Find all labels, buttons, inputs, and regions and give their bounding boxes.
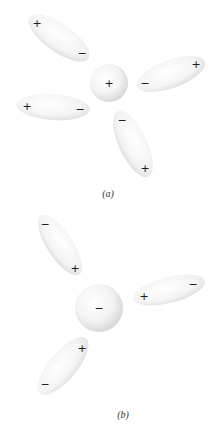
dipole-molecule: +− [105, 105, 161, 182]
negative-pole-sign: − [77, 47, 86, 60]
positive-pole-sign: + [139, 290, 148, 303]
dipole-molecule: +− [21, 6, 96, 70]
dipole-ellipse [132, 49, 209, 100]
dipole-ellipse [29, 329, 97, 402]
positive-pole-sign: + [140, 162, 149, 175]
panel-a: +−+−+−+−+(a) [15, 6, 209, 200]
dipole-molecule: +− [132, 49, 209, 100]
negative-pole-sign: − [40, 218, 49, 231]
negative-pole-sign: − [140, 77, 149, 90]
positive-pole-sign: + [77, 342, 86, 355]
positive-pole-sign: + [191, 58, 200, 71]
positive-pole-sign: + [22, 100, 31, 113]
positive-pole-sign: + [32, 17, 41, 30]
panel-caption: (a) [102, 188, 114, 200]
dipole-ellipse [30, 209, 90, 282]
negative-pole-sign: − [75, 103, 84, 116]
negative-pole-sign: − [40, 378, 49, 391]
central-ion: − [75, 284, 123, 332]
ion-charge-sign: + [104, 77, 113, 90]
dipole-molecule: +− [30, 209, 90, 282]
dipole-molecule: +− [130, 268, 208, 311]
dipole-molecule: +− [15, 91, 91, 122]
diagram-canvas: +−+−+−+−+(a)+−+−+−−(b) [0, 0, 217, 424]
negative-pole-sign: − [117, 114, 126, 127]
positive-pole-sign: + [70, 262, 79, 275]
panel-caption: (b) [117, 409, 129, 421]
dipole-ellipse [105, 105, 161, 182]
ion-dipole-diagram: +−+−+−+−+(a)+−+−+−−(b) [0, 0, 217, 424]
ion-charge-sign: − [94, 302, 103, 315]
negative-pole-sign: − [188, 278, 197, 291]
dipole-molecule: +− [29, 329, 97, 402]
central-ion: + [90, 64, 128, 102]
panel-b: +−+−+−−(b) [29, 209, 208, 421]
